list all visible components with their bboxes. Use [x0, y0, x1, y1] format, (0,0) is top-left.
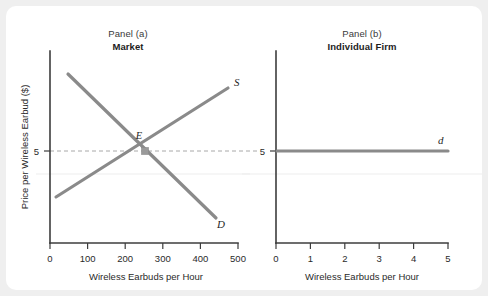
panel-a-x-ticklabel-300: 300: [155, 253, 171, 264]
panel-a-x-ticklabel-400: 400: [192, 253, 208, 264]
firm-demand-curve-label: d: [438, 134, 444, 146]
panel-b-x-ticklabel-2: 2: [342, 253, 347, 264]
panel-b-y-ticklabel-5: 5: [260, 146, 265, 157]
panel-b-x-axis-title: Wireless Earbuds per Hour: [305, 271, 419, 282]
panel-a-market: Panel (a) Market 5 Price per Wireless Ea…: [6, 6, 250, 290]
figure-card: Panel (a) Market 5 Price per Wireless Ea…: [6, 6, 482, 290]
supply-curve: [56, 88, 228, 197]
panel-a-y-ticklabel-5: 5: [34, 146, 39, 157]
equilibrium-point-marker: [142, 148, 149, 155]
panel-b-x-ticklabel-5: 5: [445, 253, 450, 264]
demand-curve: [68, 74, 216, 218]
panel-b-plot: 5 0 1 2 3 4 5 Wireless Earbuds per Hour …: [242, 6, 482, 290]
panel-b-x-ticklabel-4: 4: [411, 253, 416, 264]
supply-curve-label: S: [234, 76, 240, 88]
panel-b-x-ticklabel-0: 0: [273, 253, 278, 264]
panel-b-x-ticklabel-1: 1: [308, 253, 313, 264]
equilibrium-label: E: [135, 130, 143, 141]
panel-a-x-ticklabel-0: 0: [47, 253, 52, 264]
panel-a-x-ticklabel-200: 200: [117, 253, 133, 264]
demand-curve-label: D: [216, 218, 225, 230]
panel-a-x-ticklabel-100: 100: [80, 253, 96, 264]
panel-a-x-axis-title: Wireless Earbuds per Hour: [89, 271, 203, 282]
panel-a-y-axis-title: Price per Wireless Earbud ($): [19, 85, 30, 210]
panel-b-x-ticklabel-3: 3: [377, 253, 382, 264]
panel-b-individual-firm: Panel (b) Individual Firm 5 0 1 2 3 4: [242, 6, 482, 290]
panel-a-plot: 5 Price per Wireless Earbud ($) 0 100 20…: [6, 6, 250, 290]
